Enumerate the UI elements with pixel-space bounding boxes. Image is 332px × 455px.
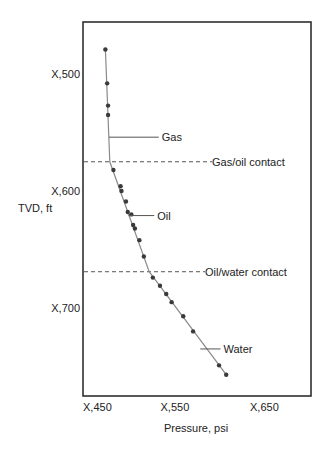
x-axis-ticks: X,450X,550X,650 bbox=[83, 401, 279, 413]
data-point-oil bbox=[119, 189, 123, 193]
data-point-oil bbox=[133, 226, 137, 230]
data-point-oil bbox=[111, 168, 115, 172]
data-point-gas bbox=[105, 81, 109, 85]
y-tick-label: X,500 bbox=[51, 68, 80, 80]
data-point-water bbox=[164, 292, 168, 296]
data-point-water bbox=[169, 300, 173, 304]
annotation-water: Water bbox=[224, 343, 253, 355]
contact-label: Gas/oil contact bbox=[212, 156, 285, 168]
x-tick-label: X,650 bbox=[250, 401, 279, 413]
data-point-water bbox=[217, 363, 221, 367]
y-axis-ticks: X,500X,600X,700 bbox=[51, 68, 80, 314]
data-point-water bbox=[191, 329, 195, 333]
data-point-water bbox=[224, 372, 228, 376]
annotation-oil: Oil bbox=[157, 210, 170, 222]
x-axis-label: Pressure, psi bbox=[164, 422, 228, 434]
data-point-gas bbox=[106, 103, 110, 107]
data-point-gas bbox=[103, 47, 107, 51]
data-point-oil bbox=[124, 199, 128, 203]
y-tick-label: X,600 bbox=[51, 185, 80, 197]
data-point-water bbox=[158, 284, 162, 288]
contact-label: Oil/water contact bbox=[205, 266, 287, 278]
data-point-oil bbox=[142, 254, 146, 258]
data-point-gas bbox=[106, 113, 110, 117]
pressure-depth-chart: Gas/oil contactOil/water contact GasOilW… bbox=[0, 0, 332, 455]
data-point-oil bbox=[137, 238, 141, 242]
data-point-water bbox=[151, 275, 155, 279]
x-tick-label: X,550 bbox=[161, 401, 190, 413]
data-point-oil bbox=[118, 184, 122, 188]
data-point-water bbox=[181, 314, 185, 318]
plot-frame bbox=[83, 22, 311, 396]
annotation-gas: Gas bbox=[162, 131, 183, 143]
x-tick-label: X,450 bbox=[83, 401, 112, 413]
y-tick-label: X,700 bbox=[51, 302, 80, 314]
y-axis-label: TVD, ft bbox=[18, 202, 52, 214]
